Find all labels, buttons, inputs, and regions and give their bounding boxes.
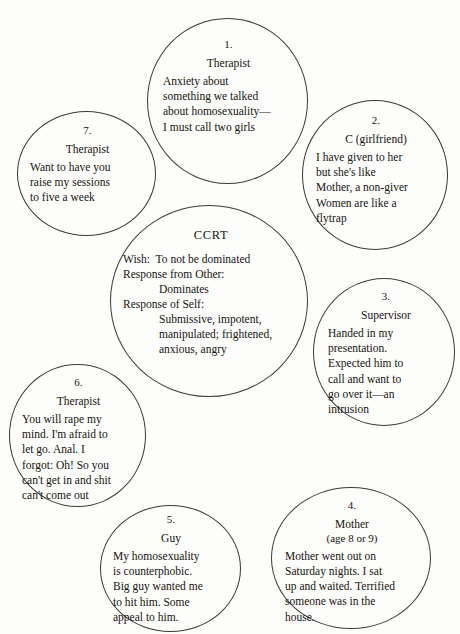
episode-number-2: 2. bbox=[316, 114, 436, 128]
episode-number-6: 6. bbox=[22, 376, 135, 390]
episode-content-2: 2. C (girlfriend) I have given to her bu… bbox=[316, 114, 436, 226]
ccrt-response-self-label: Response of Self: bbox=[123, 297, 299, 312]
episode-body-3: Handed in my presentation. Expected him … bbox=[328, 326, 444, 418]
episode-body-6: You will rape my mind. I'm afraid to let… bbox=[22, 412, 135, 504]
episode-content-1: 1. Therapist Anxiety about something we … bbox=[163, 38, 294, 135]
episode-role-1: Therapist bbox=[163, 55, 294, 71]
ccrt-node-content: CCRT Wish: To not be dominated Response … bbox=[123, 228, 299, 357]
diagram-canvas: CCRT Wish: To not be dominated Response … bbox=[0, 0, 460, 634]
episode-content-7: 7. Therapist Want to have you raise my s… bbox=[30, 124, 145, 206]
episode-number-3: 3. bbox=[328, 290, 444, 304]
episode-body-1: Anxiety about something we talked about … bbox=[163, 74, 294, 135]
episode-body-5: My homosexuality is counterphobic. Big g… bbox=[113, 549, 229, 625]
episode-role-6: Therapist bbox=[22, 393, 135, 409]
episode-number-5: 5. bbox=[113, 513, 229, 527]
episode-content-3: 3. Supervisor Handed in my presentation.… bbox=[328, 290, 444, 418]
ccrt-response-other-value: Dominates bbox=[123, 282, 299, 297]
ccrt-title: CCRT bbox=[123, 228, 299, 243]
episode-role-3: Supervisor bbox=[328, 307, 444, 323]
episode-content-5: 5. Guy My homosexuality is counterphobic… bbox=[113, 513, 229, 625]
episode-role-7: Therapist bbox=[30, 141, 145, 157]
episode-body-7: Want to have you raise my sessions to fi… bbox=[30, 160, 145, 206]
episode-content-4: 4. Mother (age 8 or 9) Mother went out o… bbox=[285, 499, 419, 625]
episode-role-sub-4: (age 8 or 9) bbox=[285, 532, 419, 546]
episode-role-2: C (girlfriend) bbox=[316, 131, 436, 147]
ccrt-response-self-value-1: Submissive, impotent, bbox=[123, 312, 299, 327]
episode-content-6: 6. Therapist You will rape my mind. I'm … bbox=[22, 376, 135, 504]
episode-number-4: 4. bbox=[285, 499, 419, 513]
episode-number-1: 1. bbox=[163, 38, 294, 52]
ccrt-response-self-value-3: anxious, angry bbox=[123, 342, 299, 357]
ccrt-wish-line: Wish: To not be dominated bbox=[123, 252, 299, 267]
ccrt-response-self-value-2: manipulated; frightened, bbox=[123, 327, 299, 342]
episode-role-5: Guy bbox=[113, 530, 229, 546]
episode-number-7: 7. bbox=[30, 124, 145, 138]
episode-body-2: I have given to her but she's like Mothe… bbox=[316, 150, 436, 226]
ccrt-response-other-label: Response from Other: bbox=[123, 267, 299, 282]
episode-role-4: Mother bbox=[285, 516, 419, 532]
episode-body-4: Mother went out on Saturday nights. I sa… bbox=[285, 549, 419, 625]
